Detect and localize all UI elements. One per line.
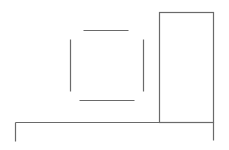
broken-square xyxy=(71,31,144,101)
sketch-canvas xyxy=(0,0,229,150)
base-legs xyxy=(16,123,214,142)
tall-rectangle xyxy=(160,13,214,123)
